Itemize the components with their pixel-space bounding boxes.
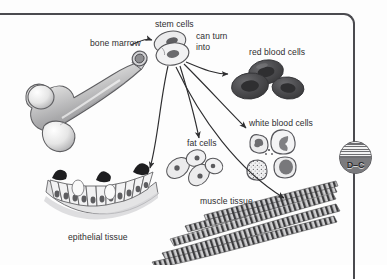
- label-red-blood-cells: red blood cells: [249, 47, 305, 57]
- fat-cells-illustration: [163, 147, 226, 190]
- label-stem-cells: stem cells: [155, 19, 194, 29]
- femur-bone-illustration: [26, 48, 150, 151]
- badge-label: D–C: [340, 160, 371, 170]
- label-epithelial-tissue: epithelial tissue: [68, 232, 128, 242]
- epithelial-tissue-illustration: [44, 163, 158, 219]
- label-white-blood-cells: white blood cells: [249, 118, 313, 128]
- label-bone-marrow: bone marrow: [90, 38, 141, 48]
- muscle-tissue-illustration: [152, 181, 340, 265]
- red-blood-cells-illustration: [230, 57, 305, 101]
- stem-cells-illustration: [152, 28, 191, 68]
- white-blood-cells-illustration: [247, 130, 296, 180]
- label-muscle-tissue: muscle tissue: [200, 196, 253, 206]
- badge-stripes: [340, 142, 371, 158]
- dc-badge[interactable]: D–C: [339, 141, 372, 174]
- label-can-turn-into: can turn into: [196, 31, 240, 52]
- label-fat-cells: fat cells: [187, 138, 217, 148]
- arrow-stem-to-epithelial-tissue: [150, 66, 168, 168]
